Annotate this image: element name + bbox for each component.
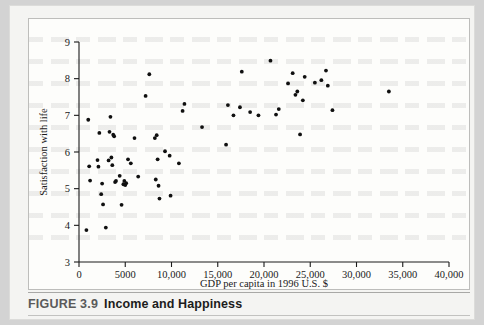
- page-sheet: 3456789 0500010,00015,00020,00025,00030,…: [10, 6, 474, 319]
- y-axis-title: Satisfaction with life: [38, 108, 49, 196]
- data-point: [133, 136, 137, 140]
- y-tick-label-5: 5: [65, 183, 70, 194]
- data-points: [85, 59, 391, 232]
- data-point: [387, 90, 391, 94]
- data-point: [126, 157, 130, 161]
- figure-caption: FIGURE 3.9 Income and Happiness: [28, 294, 470, 314]
- data-point: [156, 157, 160, 161]
- data-point: [118, 174, 122, 178]
- data-point: [108, 130, 112, 134]
- data-point: [200, 125, 204, 129]
- data-point: [114, 179, 118, 183]
- caption-figure-title: Income and Happiness: [104, 297, 242, 311]
- data-point: [298, 133, 302, 137]
- x-tick-label-0: 0: [76, 269, 81, 280]
- data-point: [88, 179, 92, 183]
- data-point: [177, 161, 181, 165]
- data-point: [277, 107, 281, 111]
- x-tick-label-35,000: 35,000: [388, 269, 417, 280]
- data-point: [154, 178, 158, 182]
- data-point: [147, 72, 151, 76]
- data-point: [155, 133, 159, 137]
- data-point: [232, 113, 236, 117]
- data-point: [238, 105, 242, 109]
- data-point: [120, 203, 124, 207]
- data-point: [248, 110, 252, 114]
- data-point: [157, 184, 161, 188]
- data-point: [226, 103, 230, 107]
- data-point: [286, 82, 290, 86]
- data-point: [291, 71, 295, 75]
- data-point: [224, 143, 228, 147]
- data-point: [112, 134, 116, 138]
- data-point: [109, 115, 113, 119]
- x-tick-label-30,000: 30,000: [342, 269, 371, 280]
- x-axis-title: GDP per capita in 1996 U.S. $: [200, 278, 328, 289]
- data-point: [181, 109, 185, 113]
- data-point: [269, 59, 273, 63]
- data-point: [144, 94, 148, 98]
- y-tick-label-6: 6: [65, 147, 70, 158]
- caption-divider-bottom: [28, 315, 470, 316]
- data-point: [303, 75, 307, 79]
- data-point: [158, 197, 162, 201]
- data-point: [104, 226, 108, 230]
- data-point: [319, 78, 323, 82]
- data-point: [168, 154, 172, 158]
- data-point: [240, 70, 244, 74]
- y-tick-label-3: 3: [65, 257, 70, 268]
- y-axis-ticks: 3456789: [65, 37, 79, 268]
- data-point: [101, 203, 105, 207]
- data-point: [326, 84, 330, 88]
- data-point: [294, 93, 298, 97]
- data-point: [124, 181, 128, 185]
- data-point: [96, 158, 100, 162]
- x-tick-label-5000: 5000: [115, 269, 136, 280]
- data-point: [87, 164, 91, 168]
- y-tick-label-7: 7: [65, 110, 70, 121]
- data-point: [110, 163, 114, 167]
- data-point: [274, 113, 278, 117]
- caption-divider-top: [28, 292, 470, 293]
- data-point: [163, 149, 167, 153]
- y-tick-label-8: 8: [65, 73, 70, 84]
- data-point: [85, 228, 89, 232]
- data-point: [324, 69, 328, 73]
- data-point: [257, 113, 261, 117]
- data-point: [136, 175, 140, 179]
- data-point: [129, 161, 133, 165]
- data-point: [107, 159, 111, 163]
- data-point: [295, 90, 299, 94]
- figure-page: 3456789 0500010,00015,00020,00025,00030,…: [0, 0, 484, 325]
- data-point: [313, 81, 317, 85]
- data-point: [86, 118, 90, 122]
- data-point: [99, 192, 103, 196]
- x-tick-label-40,000: 40,000: [435, 269, 464, 280]
- data-point: [97, 165, 101, 169]
- caption-figure-number: FIGURE 3.9: [28, 297, 98, 311]
- scatter-plot: 3456789 0500010,00015,00020,00025,00030,…: [29, 19, 471, 291]
- x-tick-label-10,000: 10,000: [157, 269, 186, 280]
- y-tick-label-4: 4: [65, 220, 71, 231]
- data-point: [331, 108, 335, 112]
- data-point: [183, 102, 187, 106]
- y-tick-label-9: 9: [65, 37, 70, 48]
- data-point: [97, 131, 101, 135]
- data-point: [100, 182, 104, 186]
- data-point: [169, 194, 173, 198]
- scatter-chart-svg: 3456789 0500010,00015,00020,00025,00030,…: [29, 19, 471, 291]
- figure-panel: 3456789 0500010,00015,00020,00025,00030,…: [28, 18, 470, 290]
- data-point: [301, 98, 305, 102]
- data-point: [109, 156, 113, 160]
